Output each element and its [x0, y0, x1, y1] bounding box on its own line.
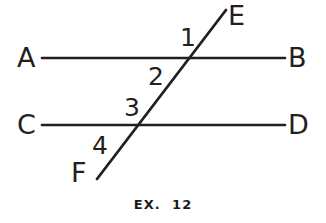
angle-label-3: 3: [124, 95, 140, 120]
angle-label-2: 2: [148, 64, 164, 89]
point-label-f: F: [71, 159, 87, 186]
point-label-c: C: [17, 111, 36, 138]
line-ef-transversal: [97, 10, 226, 179]
point-label-d: D: [288, 111, 309, 138]
geometry-figure-ex-12: A B C D E F 1 2 3 4 EX. 12: [0, 0, 326, 223]
angle-label-1: 1: [180, 25, 196, 50]
figure-caption: EX. 12: [0, 197, 326, 212]
point-label-b: B: [288, 44, 307, 71]
point-label-a: A: [17, 44, 35, 71]
angle-label-4: 4: [92, 133, 108, 158]
point-label-e: E: [228, 2, 245, 29]
figure-canvas: [0, 0, 326, 223]
